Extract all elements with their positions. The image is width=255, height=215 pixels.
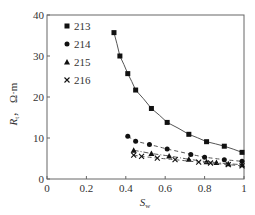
x-tick-label: 1 [241, 182, 247, 194]
y-tick-label: 10 [33, 132, 45, 144]
x-tick-label: 0.2 [80, 182, 94, 194]
chart: 00.20.40.60.81010203040 213214215216 Rt，… [0, 0, 255, 215]
x-tick-label: 0 [44, 182, 50, 194]
y-tick-label: 20 [33, 91, 45, 103]
legend-label: 213 [74, 20, 91, 32]
y-tick-label: 0 [39, 173, 45, 185]
x-tick-label: 0.8 [198, 182, 212, 194]
y-axis-label: Rt， Ω·m [7, 82, 21, 126]
legend-item-214: 214 [65, 38, 92, 50]
legend-item-213: 213 [65, 20, 92, 32]
data-series [111, 30, 245, 168]
legend-label: 216 [74, 74, 91, 86]
series-213 [111, 30, 244, 155]
y-tick-label: 30 [33, 50, 45, 62]
x-tick-label: 0.6 [158, 182, 172, 194]
legend-item-216: 216 [65, 74, 92, 86]
y-tick-label: 40 [33, 9, 45, 21]
axis-ticks: 00.20.40.60.81010203040 [33, 9, 247, 194]
legend-label: 214 [74, 38, 91, 50]
legend-item-215: 215 [64, 56, 91, 68]
legend-label: 215 [74, 56, 91, 68]
series-214 [125, 134, 244, 164]
legend: 213214215216 [64, 20, 91, 86]
x-axis-label: Sw [140, 196, 152, 210]
x-tick-label: 0.4 [119, 182, 133, 194]
